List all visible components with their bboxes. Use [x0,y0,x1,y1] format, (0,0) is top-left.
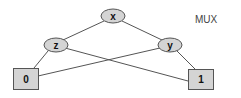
terminal-0-label: 0 [23,74,29,85]
edge-y-1 [177,51,195,69]
diagram-title: MUX [195,14,218,25]
terminal-1-label: 1 [198,74,204,85]
edge-x-y [122,21,162,40]
node-x: x [101,9,125,23]
node-z-label: z [54,40,59,51]
terminal-1: 1 [189,70,214,90]
node-y-label: y [167,40,173,51]
bdd-diagram: x z y 0 1 MUX [0,0,241,98]
edge-z-0 [34,51,48,68]
terminal-0: 0 [14,69,39,90]
edge-z-1 [65,48,188,81]
node-z: z [44,38,68,52]
node-x-label: x [110,11,116,22]
node-y: y [158,38,182,52]
edge-x-z [63,21,104,40]
